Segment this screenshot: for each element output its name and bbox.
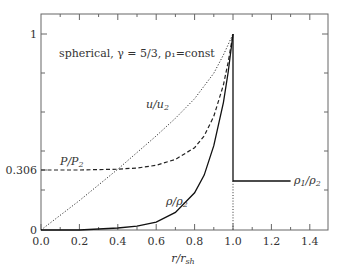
label-rho: ρ/ρ2 [165,195,188,209]
svg-text:0: 0 [30,224,37,237]
chart: 0.0 0.2 0.4 0.6 0.8 1.0 1.2 1.4 0 0.306 … [0,0,346,268]
svg-text:0.4: 0.4 [109,235,127,248]
svg-text:1.0: 1.0 [224,235,242,248]
annotation-text: spherical, γ = 5/3, ρ₁=const [59,47,215,60]
label-rho1: ρ1/ρ2 [293,174,321,188]
svg-text:1: 1 [30,28,37,41]
svg-text:0.306: 0.306 [6,164,38,177]
series-rho-line [41,34,233,230]
label-p: P/P2 [59,155,84,169]
svg-text:1.4: 1.4 [301,235,319,248]
svg-text:0.6: 0.6 [147,235,165,248]
svg-text:0.8: 0.8 [186,235,204,248]
series-rho1-line [233,34,291,181]
svg-text:1.2: 1.2 [263,235,281,248]
svg-text:0.2: 0.2 [71,235,89,248]
label-u: u/u2 [146,98,169,112]
x-tick-labels: 0.0 0.2 0.4 0.6 0.8 1.0 1.2 1.4 [32,235,318,248]
x-axis-label: r/rsh [171,252,195,266]
series-u-line [41,34,233,230]
y-tick-labels: 0 0.306 1 [6,28,38,237]
